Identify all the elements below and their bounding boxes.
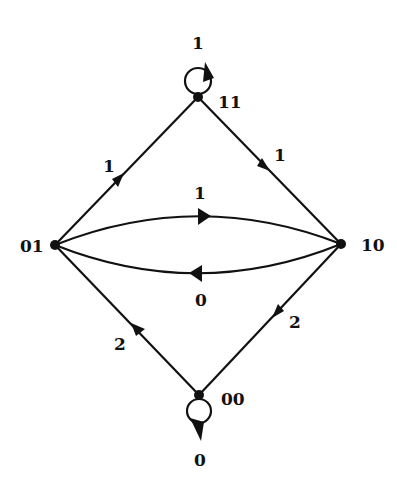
self-loop-00: 0 <box>187 399 211 470</box>
edge-label-10-00: 2 <box>289 312 301 332</box>
state-node-11 <box>193 92 203 102</box>
edge-label-01-10: 1 <box>194 183 206 203</box>
edge-01-10-upper: 1 <box>55 183 341 245</box>
state-label-01: 01 <box>20 236 44 256</box>
state-node-00 <box>194 390 204 400</box>
state-node-10 <box>336 239 346 249</box>
edge-label-10-01: 0 <box>195 290 207 310</box>
state-label-00: 00 <box>221 389 245 409</box>
arrow-icon <box>198 208 211 225</box>
state-node-01 <box>50 240 60 250</box>
edge-label-11-10: 1 <box>274 145 286 165</box>
edge-label-00-01: 2 <box>114 334 126 354</box>
edge-label-11-11: 1 <box>192 33 204 53</box>
self-loop-11: 1 <box>185 33 214 94</box>
arrow-icon <box>189 265 202 282</box>
arrow-icon <box>203 62 214 82</box>
edge-label-00-00: 0 <box>194 450 206 470</box>
arrow-icon <box>190 418 204 441</box>
edge-10-01-lower: 0 <box>55 244 341 310</box>
state-label-10: 10 <box>361 235 385 255</box>
state-label-11: 11 <box>218 92 242 112</box>
state-diagram: 1 1 1 1 0 2 2 0 11 01 10 00 <box>0 0 397 488</box>
arrow-icon <box>131 323 145 336</box>
edge-label-01-11: 1 <box>103 156 115 176</box>
